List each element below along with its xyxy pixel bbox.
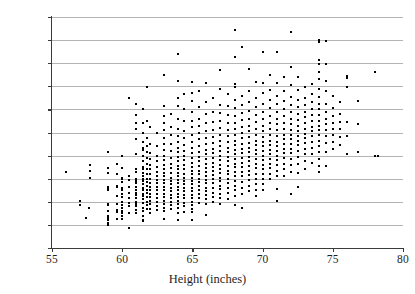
y-tick-mark [48, 202, 52, 203]
data-point [128, 197, 130, 199]
data-point [290, 123, 292, 125]
data-point [227, 187, 229, 189]
data-point [191, 180, 193, 182]
data-point [255, 106, 257, 108]
data-point [234, 189, 236, 191]
data-point [219, 172, 221, 174]
data-point [156, 132, 158, 134]
data-point [318, 145, 320, 147]
x-tick-mark [192, 248, 193, 252]
data-point [191, 194, 193, 196]
data-point [135, 153, 137, 155]
data-point [149, 200, 151, 202]
data-point [297, 106, 299, 108]
data-point [116, 218, 118, 220]
data-point [297, 113, 299, 115]
data-point [177, 97, 179, 99]
data-point [177, 193, 179, 195]
data-point [262, 173, 264, 175]
data-point [276, 111, 278, 113]
data-point [149, 212, 151, 214]
x-tick-label: 80 [383, 253, 415, 265]
data-point [163, 137, 165, 139]
data-point [205, 179, 207, 181]
data-point [269, 173, 271, 175]
data-point [283, 163, 285, 165]
data-point [276, 82, 278, 84]
data-point [198, 197, 200, 199]
data-point [219, 180, 221, 182]
data-point [163, 203, 165, 205]
data-point [248, 179, 250, 181]
data-point [283, 143, 285, 145]
data-point [234, 153, 236, 155]
data-point [205, 182, 207, 184]
data-point [219, 185, 221, 187]
data-point [241, 119, 243, 121]
data-point [311, 135, 313, 137]
data-point [146, 86, 148, 88]
data-point [325, 103, 327, 105]
data-point [241, 132, 243, 134]
data-point [205, 113, 207, 115]
data-point [255, 121, 257, 123]
data-point [156, 175, 158, 177]
data-point [234, 99, 236, 101]
data-point [311, 147, 313, 149]
data-point [318, 88, 320, 90]
data-point [121, 181, 123, 183]
data-point [205, 167, 207, 169]
data-point [269, 89, 271, 91]
data-point [183, 168, 185, 170]
data-point [255, 149, 257, 151]
data-point [255, 140, 257, 142]
data-point [297, 163, 299, 165]
data-point [357, 151, 359, 153]
data-point [177, 135, 179, 137]
data-point [234, 149, 236, 151]
data-point [163, 143, 165, 145]
data-point [262, 189, 264, 191]
data-point [183, 173, 185, 175]
data-point [241, 46, 243, 48]
data-point [241, 181, 243, 183]
data-point [163, 218, 165, 220]
data-point [183, 180, 185, 182]
data-point [177, 175, 179, 177]
data-point [142, 155, 144, 157]
data-point [212, 148, 214, 150]
data-point [107, 172, 109, 174]
data-point [255, 167, 257, 169]
data-point [304, 128, 306, 130]
data-point [276, 164, 278, 166]
data-point [276, 129, 278, 131]
data-point [325, 135, 327, 137]
data-point [198, 189, 200, 191]
data-point [269, 128, 271, 130]
data-point [177, 219, 179, 221]
data-point [205, 143, 207, 145]
data-point [163, 207, 165, 209]
data-point [318, 71, 320, 73]
data-point [325, 40, 327, 42]
data-point [170, 183, 172, 185]
data-point [205, 130, 207, 132]
data-point [332, 115, 334, 117]
y-tick-mark [48, 179, 52, 180]
data-point [248, 110, 250, 112]
data-point [248, 170, 250, 172]
data-point [212, 162, 214, 164]
data-point [212, 111, 214, 113]
data-point [142, 141, 144, 143]
data-point [325, 111, 327, 113]
data-point [116, 173, 118, 175]
data-point [311, 141, 313, 143]
data-point [183, 144, 185, 146]
data-point [177, 53, 179, 55]
data-point [234, 115, 236, 117]
data-point [198, 193, 200, 195]
data-point [121, 207, 123, 209]
gridline [52, 133, 403, 134]
data-point [290, 129, 292, 131]
data-point [142, 172, 144, 174]
